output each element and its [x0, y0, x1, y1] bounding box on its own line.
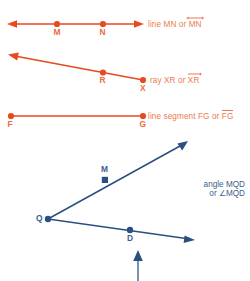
up-arrow-head — [133, 250, 143, 261]
point-f — [8, 113, 14, 119]
point-n — [100, 21, 106, 27]
point-x — [140, 77, 146, 83]
figure-line-mn — [7, 20, 144, 27]
point-m-angle — [102, 177, 108, 183]
figure-angle-mqd — [45, 141, 195, 243]
up-arrow-pointer — [133, 250, 143, 281]
point-q — [45, 216, 51, 222]
point-m — [54, 21, 60, 27]
angle-ray-qm-stroke — [48, 146, 180, 219]
angle-ray-qd-stroke — [48, 219, 186, 239]
geometry-figure-canvas — [0, 0, 250, 281]
point-d — [127, 227, 133, 233]
angle-ray-qm-arrowhead — [177, 141, 188, 150]
angle-ray-qd-arrowhead — [184, 235, 195, 243]
figure-segment-fg — [8, 113, 146, 119]
line-mn-arrowhead-right — [134, 20, 144, 27]
point-g — [140, 113, 146, 119]
ray-xr-arrowhead — [8, 53, 19, 61]
figure-ray-xr — [8, 53, 146, 84]
point-r — [100, 69, 106, 75]
ray-xr-stroke — [16, 56, 143, 80]
line-mn-arrowhead-left — [7, 20, 17, 27]
